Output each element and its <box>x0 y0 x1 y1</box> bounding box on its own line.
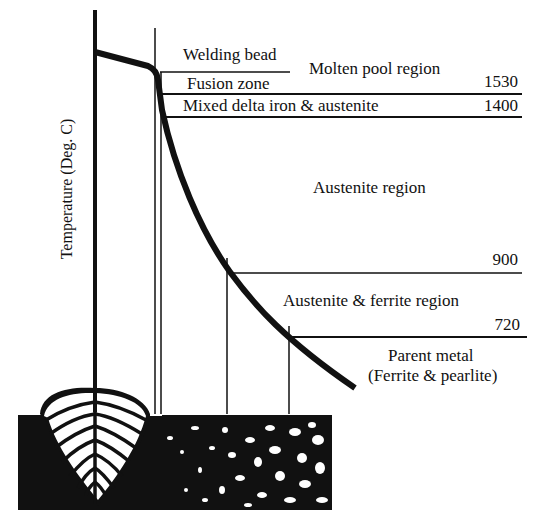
label-parent-metal-sub: (Ferrite & pearlite) <box>368 367 497 385</box>
temp-1530: 1530 <box>460 73 518 91</box>
temp-900: 900 <box>460 251 518 269</box>
y-axis-label: Temperature (Deg. C) <box>58 104 76 274</box>
label-molten-pool: Molten pool region <box>309 60 440 78</box>
label-parent-metal: Parent metal <box>388 347 473 365</box>
label-mixed-delta: Mixed delta iron & austenite <box>183 97 378 115</box>
temp-1400: 1400 <box>460 97 518 115</box>
label-austenite-region: Austenite region <box>313 179 426 197</box>
temp-720: 720 <box>460 316 520 334</box>
label-austenite-ferrite: Austenite & ferrite region <box>283 292 459 310</box>
label-welding-bead: Welding bead <box>183 46 277 64</box>
label-fusion-zone: Fusion zone <box>187 75 270 93</box>
